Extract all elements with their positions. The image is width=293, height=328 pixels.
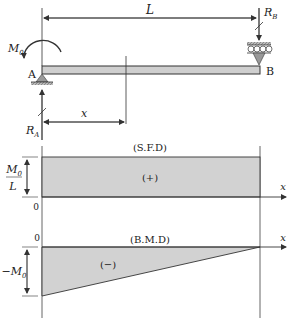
- reaction-b-label: RB: [263, 6, 277, 21]
- reaction-b-arrow-icon: [255, 8, 263, 40]
- bmd-zero: 0: [34, 233, 40, 243]
- bmd-axis-label: x: [280, 232, 286, 243]
- bmd-value: −M0: [2, 265, 27, 280]
- moment-arrow-icon: [24, 40, 61, 58]
- sfd-zero: 0: [33, 202, 39, 212]
- beam: [42, 66, 260, 74]
- beam-diagram: L M0 A RA x RB B: [0, 0, 293, 328]
- bmd-sign: (−): [100, 259, 116, 270]
- sfd-axis-label: x: [280, 181, 286, 192]
- point-a-label: A: [27, 68, 37, 81]
- shear-force-diagram: (S.F.D) (+) x 0 M0 L: [5, 142, 286, 212]
- bmd-title: (B.M.D): [130, 234, 170, 245]
- sfd-value-numerator: M0: [5, 163, 22, 178]
- reaction-a-label: RA: [25, 124, 39, 139]
- point-b-label: B: [266, 65, 274, 78]
- length-dimension: L: [42, 3, 256, 66]
- roller-support-icon: [247, 42, 272, 65]
- sfd-value-denominator: L: [8, 180, 16, 193]
- sfd-title: (S.F.D): [133, 142, 167, 153]
- bending-moment-diagram: (B.M.D) (−) x 0 −M0: [2, 232, 287, 296]
- sfd-sign: (+): [142, 172, 158, 183]
- length-label: L: [145, 3, 154, 17]
- moment-label: M0: [7, 42, 24, 57]
- x-label: x: [81, 107, 88, 120]
